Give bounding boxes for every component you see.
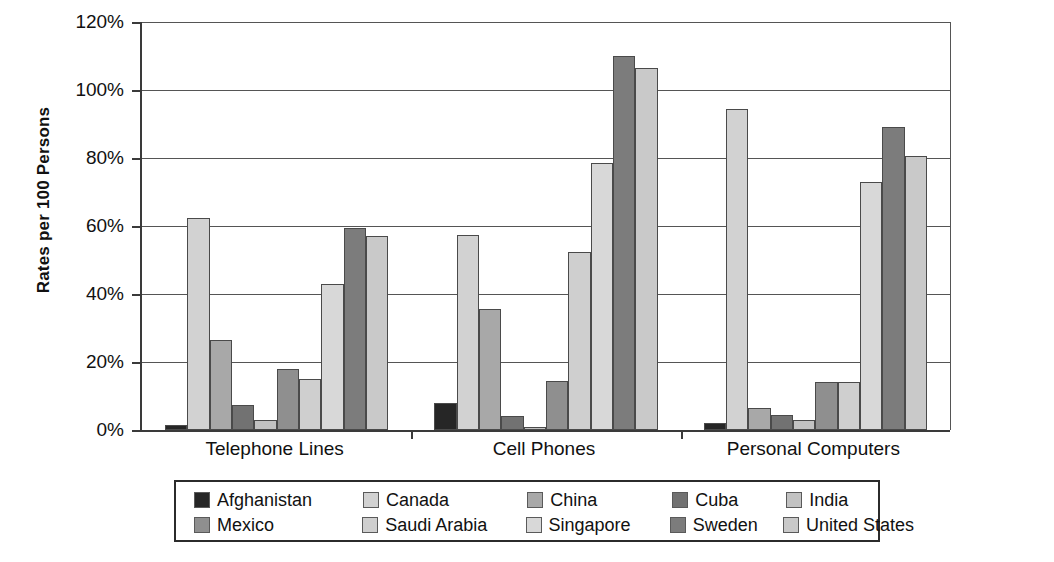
x-category-label: Personal Computers bbox=[679, 438, 948, 460]
legend-item: United States bbox=[783, 516, 878, 534]
y-tick-label: 60% bbox=[46, 216, 124, 235]
bar bbox=[591, 163, 613, 430]
bar bbox=[793, 420, 815, 430]
legend-item: Afghanistan bbox=[194, 491, 363, 509]
bar bbox=[344, 228, 366, 430]
bar bbox=[568, 252, 590, 431]
legend-item: Canada bbox=[363, 491, 527, 509]
legend-item: India bbox=[786, 491, 878, 509]
legend-swatch-icon bbox=[783, 517, 799, 533]
legend-item: Singapore bbox=[526, 516, 670, 534]
bar bbox=[277, 369, 299, 430]
y-tick-mark bbox=[132, 430, 141, 432]
y-tick-label: 0% bbox=[46, 420, 124, 439]
legend-row: AfghanistanCanadaChinaCubaIndia bbox=[194, 487, 878, 512]
bar bbox=[613, 56, 635, 430]
bar bbox=[299, 379, 321, 430]
x-category-label: Telephone Lines bbox=[140, 438, 409, 460]
chart-legend: AfghanistanCanadaChinaCubaIndia MexicoSa… bbox=[174, 480, 880, 542]
bar bbox=[232, 405, 254, 431]
bar bbox=[366, 236, 388, 430]
y-tick-label: 80% bbox=[46, 148, 124, 167]
legend-label: Afghanistan bbox=[217, 491, 312, 509]
bar bbox=[726, 109, 748, 430]
y-tick-label: 20% bbox=[46, 352, 124, 371]
plot-area bbox=[140, 22, 950, 432]
legend-label: Canada bbox=[386, 491, 449, 509]
x-category-label: Cell Phones bbox=[409, 438, 678, 460]
legend-swatch-icon bbox=[194, 517, 210, 533]
legend-item: Saudi Arabia bbox=[362, 516, 525, 534]
legend-label: Sweden bbox=[693, 516, 758, 534]
legend-swatch-icon bbox=[194, 492, 210, 508]
legend-label: China bbox=[550, 491, 597, 509]
bar bbox=[457, 235, 479, 431]
y-tick-mark bbox=[132, 90, 141, 92]
y-tick-label: 40% bbox=[46, 284, 124, 303]
bar bbox=[838, 382, 860, 430]
bar bbox=[501, 416, 523, 430]
bar bbox=[882, 127, 904, 430]
legend-item: Sweden bbox=[670, 516, 783, 534]
legend-swatch-icon bbox=[363, 492, 379, 508]
legend-item: China bbox=[527, 491, 672, 509]
legend-label: Cuba bbox=[695, 491, 738, 509]
y-tick-mark bbox=[132, 158, 141, 160]
legend-swatch-icon bbox=[786, 492, 802, 508]
y-tick-label: 120% bbox=[46, 12, 124, 31]
legend-swatch-icon bbox=[527, 492, 543, 508]
y-tick-mark bbox=[132, 294, 141, 296]
y-tick-mark bbox=[132, 22, 141, 24]
bar bbox=[815, 382, 837, 430]
bar bbox=[704, 423, 726, 430]
bar bbox=[187, 218, 209, 431]
legend-swatch-icon bbox=[670, 517, 686, 533]
legend-row: MexicoSaudi ArabiaSingaporeSwedenUnited … bbox=[194, 512, 878, 537]
plot-right-border bbox=[950, 22, 951, 430]
bar bbox=[635, 68, 657, 430]
bar-series-container bbox=[142, 22, 950, 430]
legend-label: India bbox=[809, 491, 848, 509]
legend-swatch-icon bbox=[362, 517, 378, 533]
bar bbox=[905, 156, 927, 430]
y-tick-label: 100% bbox=[46, 80, 124, 99]
chart-root: Rates per 100 Persons 0%20%40%60%80%100%… bbox=[0, 0, 1054, 562]
legend-label: Singapore bbox=[549, 516, 631, 534]
legend-item: Mexico bbox=[194, 516, 362, 534]
bar bbox=[771, 415, 793, 430]
legend-label: United States bbox=[806, 516, 914, 534]
bar bbox=[479, 309, 501, 430]
bar bbox=[434, 403, 456, 430]
bar bbox=[210, 340, 232, 430]
y-tick-mark bbox=[132, 362, 141, 364]
bar bbox=[546, 381, 568, 430]
bar bbox=[321, 284, 343, 430]
legend-item: Cuba bbox=[672, 491, 786, 509]
bar bbox=[524, 427, 546, 430]
y-tick-mark bbox=[132, 226, 141, 228]
bar bbox=[165, 425, 187, 430]
bar bbox=[860, 182, 882, 430]
legend-swatch-icon bbox=[526, 517, 542, 533]
legend-swatch-icon bbox=[672, 492, 688, 508]
bar bbox=[254, 420, 276, 430]
legend-label: Saudi Arabia bbox=[385, 516, 487, 534]
legend-label: Mexico bbox=[217, 516, 274, 534]
bar bbox=[748, 408, 770, 430]
